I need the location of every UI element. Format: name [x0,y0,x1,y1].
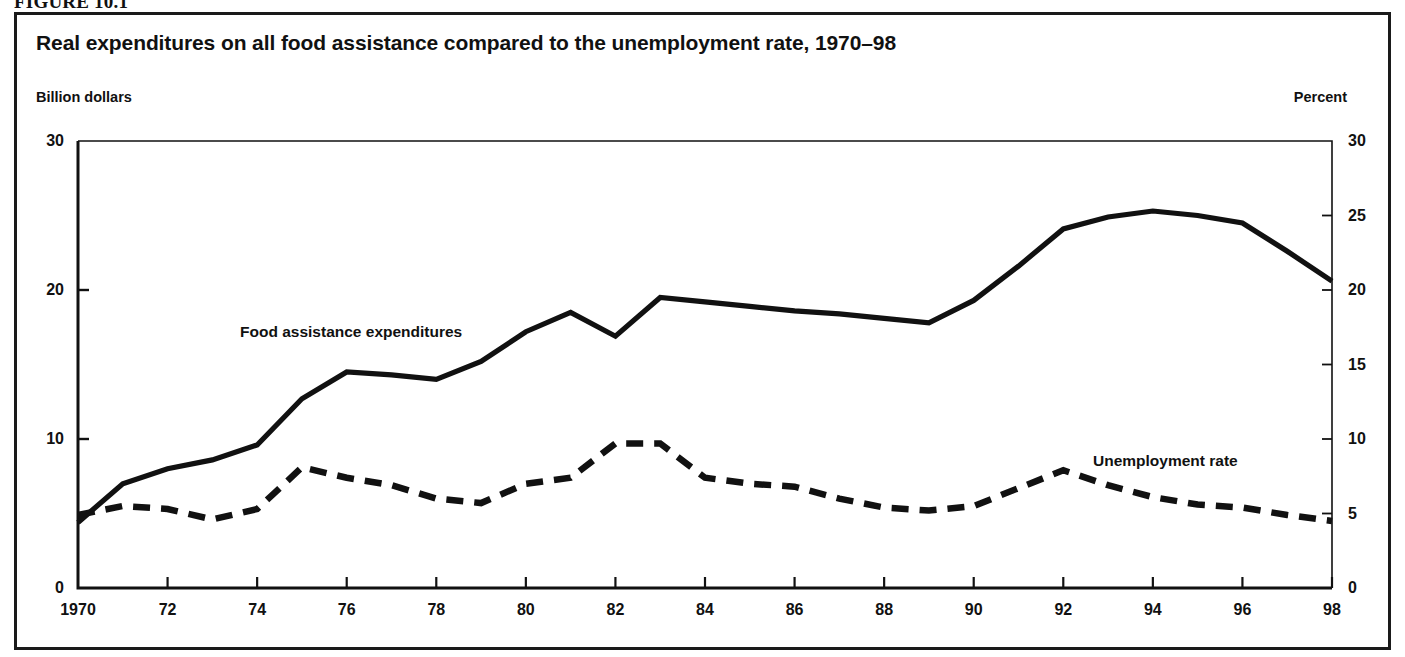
x-axis-tick-label: 74 [248,602,266,618]
y-axis-left-tick-label: 30 [46,133,64,149]
x-axis-tick-label: 1970 [60,602,96,618]
figure-page: FIGURE 10.1 Real expenditures on all foo… [0,0,1405,657]
y-axis-right-tick-label: 20 [1348,282,1366,298]
series-label-unemployment-rate: Unemployment rate [1093,452,1238,470]
x-axis-tick-label: 80 [517,602,535,618]
x-axis-tick-label: 98 [1323,602,1341,618]
y-axis-left-unit-label: Billion dollars [36,89,132,105]
y-axis-right-tick-label: 10 [1348,431,1366,447]
y-axis-left-tick-label: 0 [55,580,64,596]
x-axis-tick-label: 76 [338,602,356,618]
y-axis-right-tick-label: 25 [1348,208,1366,224]
y-axis-left-tick-label: 10 [46,431,64,447]
x-axis-tick-label: 82 [607,602,625,618]
figure-frame [14,12,1391,650]
x-axis-tick-label: 78 [427,602,445,618]
y-axis-right-tick-label: 30 [1348,133,1366,149]
x-axis-tick-label: 94 [1144,602,1162,618]
y-axis-right-tick-label: 5 [1348,506,1357,522]
x-axis-tick-label: 92 [1054,602,1072,618]
x-axis-tick-label: 88 [875,602,893,618]
x-axis-tick-label: 86 [786,602,804,618]
y-axis-left-tick-label: 20 [46,282,64,298]
y-axis-right-unit-label: Percent [1294,89,1347,105]
y-axis-right-tick-label: 0 [1348,580,1357,596]
x-axis-tick-label: 90 [965,602,983,618]
chart-title: Real expenditures on all food assistance… [36,31,896,55]
series-label-food-assistance-expenditures: Food assistance expenditures [240,323,462,341]
x-axis-tick-label: 72 [159,602,177,618]
y-axis-right-tick-label: 15 [1348,357,1366,373]
x-axis-tick-label: 84 [696,602,714,618]
x-axis-tick-label: 96 [1234,602,1252,618]
